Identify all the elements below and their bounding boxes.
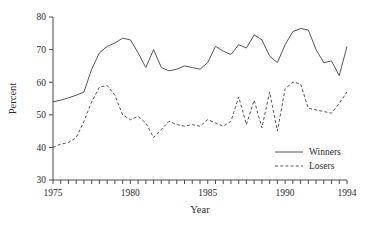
x-axis-tick-label: 1990 [276,188,295,198]
x-axis-tick-label: 1994 [338,188,357,198]
x-axis-tick-label: 1980 [121,188,140,198]
series-line-losers [53,82,347,147]
y-axis-title: Percent [7,83,18,115]
y-axis-tick-label: 60 [37,78,47,88]
legend-label-winners: Winners [309,147,341,157]
y-axis-tick-label: 80 [37,12,47,22]
line-chart: 30405060708019751980198519901994YearPerc… [0,0,367,235]
y-axis-tick-label: 70 [37,45,47,55]
chart-container: 30405060708019751980198519901994YearPerc… [0,0,367,235]
y-axis-tick-label: 30 [37,175,47,185]
x-axis-title: Year [190,204,210,215]
x-axis-tick-label: 1985 [198,188,217,198]
legend-label-losers: Losers [309,161,335,171]
x-axis-tick-label: 1975 [44,188,63,198]
y-axis-tick-label: 40 [37,143,47,153]
y-axis-tick-label: 50 [37,110,47,120]
